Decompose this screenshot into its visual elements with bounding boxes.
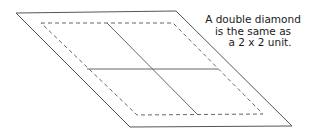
caption-line-1: A double diamond: [200, 14, 306, 26]
diagram-caption: A double diamond is the same as a 2 x 2 …: [200, 14, 306, 49]
caption-line-3: a 2 x 2 unit.: [200, 37, 306, 49]
